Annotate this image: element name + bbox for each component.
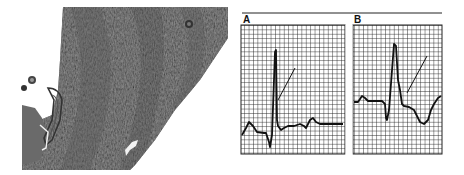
strip-label-a: A	[243, 14, 250, 25]
ecg-grid-a	[241, 25, 345, 154]
histology-image	[0, 0, 232, 175]
ecg-panels	[232, 0, 464, 175]
tissue-section	[0, 0, 232, 175]
ecg-figure: A B	[232, 0, 464, 175]
strip-label-b: B	[354, 14, 361, 25]
ecg-grid-b	[353, 25, 442, 154]
